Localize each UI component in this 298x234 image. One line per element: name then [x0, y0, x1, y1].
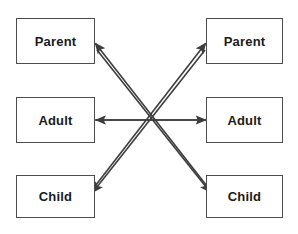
ego-box-label: Parent: [35, 35, 77, 48]
ego-box-label: Adult: [227, 114, 261, 127]
arrow-to-right-child: [97, 50, 210, 192]
ego-box-left-child: Child: [16, 175, 95, 218]
ego-box-label: Child: [228, 190, 262, 203]
ego-box-left-adult: Adult: [16, 97, 95, 143]
ego-box-right-parent: Parent: [206, 18, 283, 64]
ego-box-label: Parent: [224, 35, 266, 48]
transaction-diagram: Parent Adult Child Parent Adult Child: [0, 0, 298, 234]
ego-box-right-adult: Adult: [206, 97, 283, 143]
ego-box-left-parent: Parent: [16, 18, 95, 64]
arrow-to-left-child: [93, 50, 205, 192]
ego-box-right-child: Child: [206, 175, 283, 218]
ego-box-label: Adult: [38, 114, 72, 127]
ego-box-label: Child: [39, 190, 73, 203]
